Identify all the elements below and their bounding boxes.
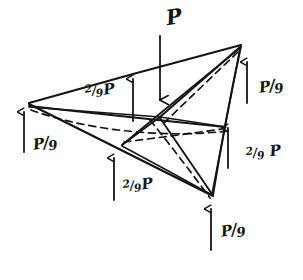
fraction-p-over-nine: P/9 <box>258 75 285 96</box>
member-topright-to-lowerleftjoint <box>122 48 240 145</box>
fraction-p-over-nine: P/9 <box>220 219 247 241</box>
label-reaction-bottom-right: P/9 <box>220 220 247 242</box>
label-applied-load-P: P <box>164 5 183 28</box>
member-topright-to-bottomjoint <box>212 49 240 194</box>
fraction-p-over-nine: P/9 <box>32 132 59 153</box>
fraction-two-ninths: 2/9 <box>122 178 142 197</box>
label-reaction-left: P/9 <box>32 133 59 154</box>
fraction-two-ninths: 2/9 <box>245 145 265 163</box>
fraction-two-ninths: 2/9 <box>84 83 104 101</box>
free-body-diagram: P 2/9 P P/9 P/9 2/9 P 2/9 P P/9 <box>0 0 303 280</box>
hidden-edge-left-to-rightmid <box>31 110 228 134</box>
label-reaction-top-right: P/9 <box>258 76 285 97</box>
